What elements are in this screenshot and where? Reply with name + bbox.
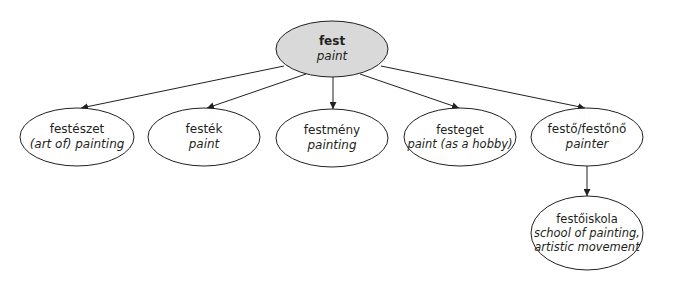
- child-word: festmény: [304, 123, 360, 138]
- edge-root-to-festeszet: [81, 66, 284, 108]
- child-gloss: (art of) painting: [30, 137, 125, 152]
- node-festmeny: festmény painting: [304, 123, 360, 153]
- child-gloss: paint: [186, 137, 223, 152]
- node-festoiskola: festőiskola school of painting, artistic…: [534, 212, 640, 254]
- node-festeget: festeget paint (as a hobby): [407, 123, 512, 151]
- child-word: festeget: [407, 123, 512, 137]
- edge-root-to-festo: [381, 66, 585, 108]
- node-festek: festék paint: [186, 122, 223, 152]
- root-gloss: paint: [317, 49, 348, 64]
- node-festeszet: festészet (art of) painting: [30, 122, 125, 152]
- child-gloss: painter: [548, 137, 627, 152]
- root-word: fest: [317, 34, 348, 49]
- word-family-diagram: fest paint festészet (art of) painting f…: [0, 0, 674, 285]
- child-word: festő/festőnő: [548, 122, 627, 137]
- child-gloss: paint (as a hobby): [407, 137, 512, 151]
- child-word: festészet: [30, 122, 125, 137]
- child-gloss: painting: [304, 138, 360, 153]
- grandchild-word: festőiskola: [534, 212, 640, 226]
- node-festo: festő/festőnő painter: [548, 122, 627, 152]
- grandchild-gloss-line2: artistic movement: [534, 240, 640, 254]
- child-word: festék: [186, 122, 223, 137]
- node-root: fest paint: [317, 34, 348, 64]
- grandchild-gloss-line1: school of painting,: [534, 226, 640, 240]
